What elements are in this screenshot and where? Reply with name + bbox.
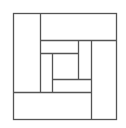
inner-lines: [14, 14, 117, 120]
outer-square: [14, 14, 117, 120]
spiral-rectangle-diagram: [0, 0, 126, 128]
